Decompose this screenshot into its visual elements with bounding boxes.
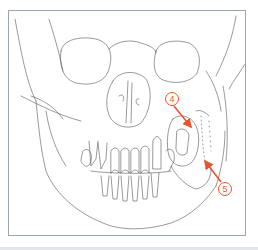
annotation-label-5: 5 [218, 182, 232, 196]
arrow-5 [205, 161, 221, 182]
annotation-arrows [0, 0, 258, 250]
arrow-4 [174, 106, 191, 127]
